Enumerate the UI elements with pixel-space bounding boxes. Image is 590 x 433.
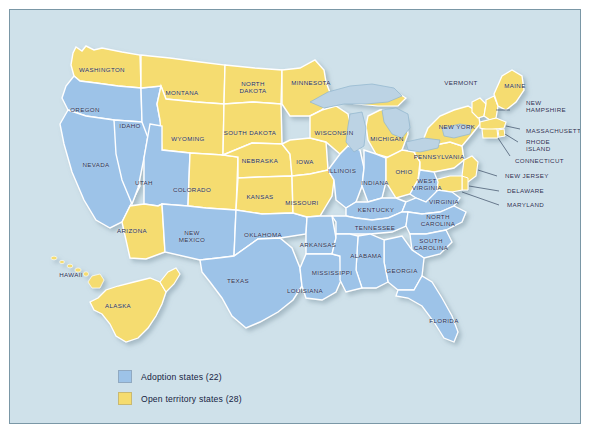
state-new-mexico[interactable] <box>162 204 236 260</box>
cut-off-title-strip <box>0 0 590 9</box>
lake-michigan <box>346 112 366 152</box>
legend-swatch-adoption <box>118 370 132 383</box>
state-delaware[interactable] <box>462 176 468 190</box>
legend-label-adoption: Adoption states (22) <box>141 372 222 382</box>
state-north-dakota[interactable] <box>224 65 282 104</box>
state-connecticut[interactable] <box>482 129 498 138</box>
legend-item-adoption[interactable]: Adoption states (22) <box>118 367 348 386</box>
legend-label-open-territory: Open territory states (28) <box>141 394 242 404</box>
map-canvas: WASHINGTONOREGONIDAHOMONTANANORTHDAKOTAM… <box>10 10 580 423</box>
state-colorado[interactable] <box>188 153 238 210</box>
map-figure-frame: WASHINGTONOREGONIDAHOMONTANANORTHDAKOTAM… <box>9 9 581 424</box>
state-arkansas[interactable] <box>306 216 336 254</box>
state-indiana[interactable] <box>362 150 386 202</box>
map-legend: Adoption states (22) Open territory stat… <box>118 367 348 411</box>
state-kansas[interactable] <box>236 176 293 214</box>
us-states-map[interactable] <box>10 10 580 423</box>
legend-item-open-territory[interactable]: Open territory states (28) <box>118 389 348 408</box>
state-alabama[interactable] <box>356 234 388 288</box>
state-arizona[interactable] <box>122 204 165 259</box>
state-rhode-island[interactable] <box>498 129 505 137</box>
legend-swatch-open-territory <box>118 392 132 405</box>
